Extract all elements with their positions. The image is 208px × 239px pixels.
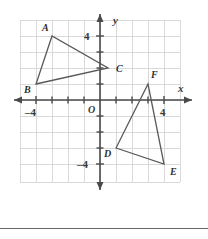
- y-axis-label: y: [111, 14, 118, 26]
- coordinate-plane-graph: y x O –4 4 4 –4 A B C D E F: [0, 0, 208, 239]
- origin-label: O: [88, 104, 95, 115]
- y-axis-arrow-down: [97, 182, 104, 190]
- footer-divider: [0, 228, 208, 229]
- vertex-label-f: F: [150, 69, 158, 80]
- x-tick-label-negative-4: –4: [24, 106, 37, 118]
- y-tick-label-negative-4: –4: [76, 158, 89, 170]
- vertex-label-a: A: [41, 22, 49, 33]
- triangle-def: [116, 84, 164, 164]
- x-axis-label: x: [177, 82, 184, 94]
- x-axis-arrow-left: [14, 97, 22, 104]
- x-axis-arrow-right: [184, 97, 192, 104]
- vertex-label-e: E: [169, 166, 177, 177]
- vertex-label-d: D: [103, 148, 111, 159]
- x-tick-label-4: 4: [160, 106, 166, 118]
- y-tick-label-4: 4: [84, 30, 90, 42]
- figure-container: y x O –4 4 4 –4 A B C D E F: [0, 0, 208, 239]
- y-axis-arrow-up: [97, 14, 104, 22]
- vertex-label-b: B: [23, 84, 31, 95]
- vertex-label-c: C: [116, 63, 123, 74]
- triangle-abc: [36, 36, 108, 84]
